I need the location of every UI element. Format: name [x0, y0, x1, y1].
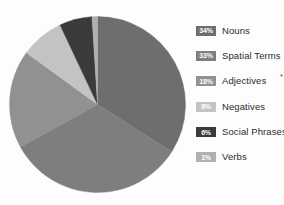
legend-label-spatial-terms: Spatial Terms: [222, 51, 281, 61]
pie-slice-group: [10, 16, 186, 192]
legend-swatch-nouns: 34%: [196, 26, 216, 36]
legend-percent-social-phrases: 6%: [201, 129, 211, 136]
legend-item-verbs[interactable]: 1% Verbs: [196, 152, 284, 163]
legend-item-spatial-terms[interactable]: 33% Spatial Terms: [196, 50, 284, 61]
legend-item-negatives[interactable]: 8% Negatives: [196, 101, 284, 112]
legend-swatch-spatial-terms: 33%: [196, 51, 216, 61]
legend-swatch-negatives: 8%: [196, 102, 216, 112]
chart-legend: 34% Nouns 33% Spatial Terms 18% Adjectiv…: [196, 25, 284, 177]
legend-item-nouns[interactable]: 34% Nouns: [196, 25, 284, 36]
pie-chart-graphic: [9, 16, 186, 193]
footnote-asterisk-icon: *: [280, 73, 283, 81]
legend-item-social-phrases[interactable]: 6% Social Phrases: [196, 127, 284, 138]
legend-swatch-verbs: 1%: [196, 152, 216, 162]
legend-label-adjectives: Adjectives: [222, 76, 266, 86]
legend-label-social-phrases: Social Phrases: [222, 127, 284, 137]
legend-percent-spatial-terms: 33%: [199, 52, 212, 59]
legend-percent-negatives: 8%: [201, 103, 211, 110]
pie-chart-figure: 34% Nouns 33% Spatial Terms 18% Adjectiv…: [0, 0, 284, 205]
legend-swatch-adjectives: 18%: [196, 76, 216, 86]
legend-percent-nouns: 34%: [199, 27, 212, 34]
legend-label-negatives: Negatives: [222, 102, 265, 112]
legend-percent-verbs: 1%: [201, 154, 211, 161]
legend-percent-adjectives: 18%: [199, 78, 212, 85]
legend-swatch-social-phrases: 6%: [196, 127, 216, 137]
legend-label-nouns: Nouns: [222, 26, 250, 36]
legend-label-verbs: Verbs: [222, 152, 247, 162]
pie-svg: [9, 16, 186, 193]
legend-item-adjectives[interactable]: 18% Adjectives *: [196, 76, 284, 87]
